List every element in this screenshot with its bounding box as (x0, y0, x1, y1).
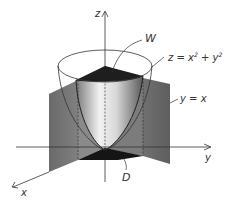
plane-equation-label: y = x (179, 93, 207, 104)
leader-plane (170, 99, 178, 103)
x-axis-label: x (20, 187, 27, 198)
region-diagram: z y x W z = x2 + y2 y = x D (0, 0, 233, 206)
leader-surface (152, 57, 164, 67)
x-axis (13, 172, 49, 187)
leader-d (124, 159, 126, 170)
z-axis-label: z (94, 8, 101, 19)
region-w-label: W (145, 32, 157, 45)
right-plane-y-equals-x (143, 78, 170, 164)
left-plane (49, 80, 78, 172)
y-axis-label: y (204, 152, 212, 163)
base-d-label: D (122, 171, 130, 184)
leader-w (112, 40, 142, 72)
surface-equation-label: z = x2 + y2 (167, 51, 222, 63)
